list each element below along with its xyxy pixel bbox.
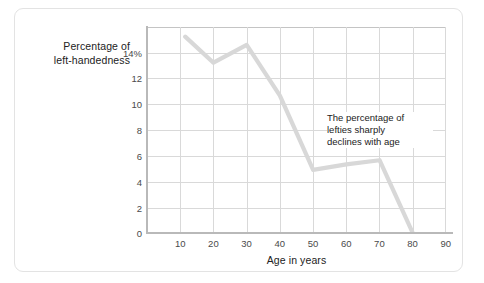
x-tick-40: 40: [267, 238, 293, 249]
x-tick-80: 80: [400, 238, 426, 249]
y-tick-0: 0: [108, 228, 142, 239]
y-tick-6: 6: [108, 150, 142, 161]
chart-screenshot: Percentage of left-handedness 14% 12: [0, 0, 484, 283]
chart-annotation-line-3: declines with age: [327, 136, 433, 148]
chart-annotation-line-1: The percentage of: [327, 112, 433, 124]
y-axis-tick-labels: 14% 12 10 8 6 4 2 0: [104, 0, 142, 283]
x-tick-70: 70: [366, 238, 392, 249]
y-tick-14: 14%: [108, 47, 142, 58]
x-tick-30: 30: [234, 238, 260, 249]
x-tick-90: 90: [433, 238, 459, 249]
y-tick-10: 10: [108, 99, 142, 110]
x-tick-60: 60: [333, 238, 359, 249]
y-tick-2: 2: [108, 202, 142, 213]
y-tick-4: 4: [108, 176, 142, 187]
chart-annotation-line-2: lefties sharply: [327, 124, 433, 136]
y-tick-8: 8: [108, 125, 142, 136]
y-tick-12: 12: [108, 73, 142, 84]
x-tick-20: 20: [200, 238, 226, 249]
x-tick-10: 10: [167, 238, 193, 249]
x-axis-title: Age in years: [147, 254, 446, 266]
x-tick-50: 50: [300, 238, 326, 249]
chart-annotation: The percentage of lefties sharply declin…: [327, 112, 433, 148]
